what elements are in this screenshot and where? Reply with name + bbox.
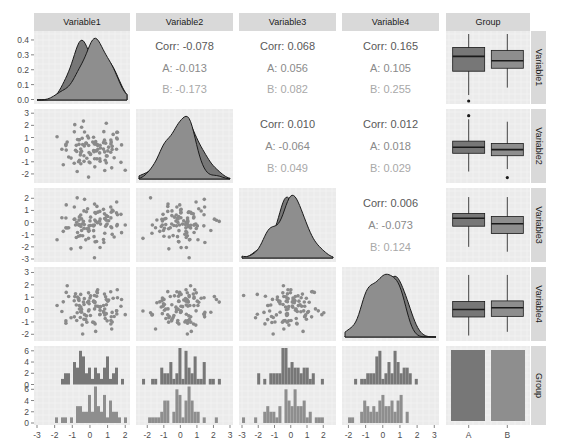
correlation-panel: Corr: 0.068A: 0.056B: 0.082: [260, 40, 315, 96]
correlation-panel: Corr: 0.006A: -0.073B: 0.124: [363, 197, 418, 253]
corr-overall: Corr: -0.078: [155, 40, 214, 52]
y-tick-label: -1: [21, 230, 29, 240]
row-label: Variable2: [534, 127, 544, 164]
correlation-panel: Corr: 0.165A: 0.105B: 0.255: [363, 40, 418, 96]
column-label: Group: [475, 17, 500, 27]
corr-group-b: B: 0.124: [370, 241, 411, 253]
corr-group-b: B: 0.029: [370, 162, 411, 174]
y-tick-label: 4: [24, 357, 29, 367]
x-tick-label: A: [466, 430, 472, 440]
y-tick-label: -3: [21, 254, 29, 264]
y-tick-label: 0: [24, 145, 29, 155]
density-Variable4: [342, 267, 439, 341]
x-tick-label: 0: [88, 430, 93, 440]
density-Variable1: [34, 31, 130, 104]
y-tick-label: 4: [24, 396, 29, 406]
corr-overall: Corr: 0.010: [260, 118, 315, 130]
y-tick-label: -2: [21, 242, 29, 252]
correlation-panel: Corr: 0.012A: 0.018B: 0.029: [363, 118, 418, 174]
x-tick-label: 0: [380, 430, 385, 440]
column-label: Variable2: [166, 17, 203, 27]
corr-group-a: A: -0.073: [368, 219, 413, 231]
box-group-b: [491, 301, 523, 316]
box-group-a: [453, 47, 485, 71]
density-Variable2: [136, 109, 233, 183]
scatter-Variable1-vs-Variable2: [34, 109, 130, 183]
bar-group-b: [491, 350, 525, 421]
scatter-Variable2-vs-Variable3: [136, 188, 233, 262]
y-tick-label: -2: [21, 169, 29, 179]
corr-group-a: A: 0.105: [370, 62, 411, 74]
corr-overall: Corr: 0.068: [260, 40, 315, 52]
y-tick-label: 6: [24, 346, 29, 356]
y-tick-label: -2: [21, 329, 29, 339]
scatter-Variable3-vs-Variable4: [239, 267, 336, 341]
corr-group-a: A: 0.056: [267, 62, 308, 74]
y-tick-label: 1: [24, 292, 29, 302]
histogram-Variable3: [239, 346, 336, 425]
y-tick-label: 2: [24, 120, 29, 130]
corr-group-b: B: 0.082: [267, 83, 308, 95]
column-label: Variable4: [372, 17, 409, 27]
x-tick-label: -2: [51, 430, 59, 440]
x-tick-label: 2: [123, 430, 128, 440]
corr-overall: Corr: 0.012: [363, 118, 418, 130]
x-tick-label: -1: [160, 430, 168, 440]
y-tick-label: 3: [24, 267, 29, 277]
y-tick-label: 1: [24, 205, 29, 215]
bar-group-a: [451, 350, 485, 421]
box-group-b: [491, 50, 523, 68]
column-label: Variable3: [269, 17, 306, 27]
scatter-Variable1-vs-Variable3: [34, 188, 130, 262]
scatter-Variable2-vs-Variable4: [136, 267, 233, 341]
x-tick-label: -3: [33, 430, 41, 440]
correlation-panel: Corr: -0.078A: -0.013B: -0.173: [155, 40, 214, 96]
boxplot-Variable3: [446, 188, 530, 262]
x-tick-label: -1: [69, 430, 77, 440]
x-tick-label: -1: [362, 430, 370, 440]
y-tick-label: 0.1: [17, 80, 29, 90]
histogram-Variable2: [136, 346, 233, 425]
boxplot-Variable2: [446, 109, 530, 183]
pairs-plot-matrix: Variable1Variable2Variable3Variable4Grou…: [0, 0, 577, 448]
column-label: Variable1: [63, 17, 100, 27]
x-tick-label: 1: [305, 430, 310, 440]
x-tick-label: B: [504, 430, 510, 440]
bar-group-counts: [446, 346, 530, 425]
histogram-Variable1: [34, 346, 130, 425]
x-tick-label: 3: [432, 430, 437, 440]
y-tick-label: 2: [24, 368, 29, 378]
y-tick-label: 0.2: [17, 65, 29, 75]
y-tick-label: 0.4: [17, 35, 29, 45]
y-tick-label: 0: [24, 305, 29, 315]
y-tick-label: 0: [24, 418, 29, 428]
x-tick-label: 2: [415, 430, 420, 440]
y-tick-label: 2: [24, 407, 29, 417]
density-Variable3: [239, 188, 336, 262]
x-tick-label: -2: [143, 430, 151, 440]
x-tick-label: -2: [345, 430, 353, 440]
x-tick-label: 1: [105, 430, 110, 440]
histogram-Variable4: [342, 346, 439, 425]
x-tick-label: 0: [178, 430, 183, 440]
corr-group-b: B: 0.049: [267, 162, 308, 174]
row-label: Variable1: [534, 49, 544, 86]
y-tick-label: 2: [24, 280, 29, 290]
y-tick-label: 6: [24, 384, 29, 394]
boxplot-Variable4: [446, 267, 530, 341]
correlation-panel: Corr: 0.010A: -0.064B: 0.049: [260, 118, 315, 174]
corr-group-b: B: 0.255: [370, 83, 411, 95]
scatter-Variable1-vs-Variable4: [34, 267, 130, 341]
corr-group-a: A: -0.064: [265, 140, 310, 152]
x-tick-label: 2: [321, 430, 326, 440]
y-tick-label: 2: [24, 193, 29, 203]
corr-group-a: A: 0.018: [370, 140, 411, 152]
x-tick-label: -2: [254, 430, 262, 440]
corr-group-a: A: -0.013: [162, 62, 207, 74]
x-tick-label: 1: [195, 430, 200, 440]
x-tick-label: 1: [398, 430, 403, 440]
y-tick-label: 0.0: [17, 95, 29, 105]
y-tick-label: -1: [21, 157, 29, 167]
x-tick-label: 2: [211, 430, 216, 440]
x-tick-label: -1: [271, 430, 279, 440]
